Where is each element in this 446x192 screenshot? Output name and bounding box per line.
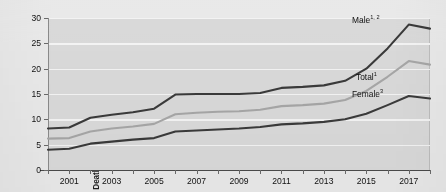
x-tick-2017 <box>409 170 410 174</box>
series-label-male-sup: 1, 2 <box>370 14 379 20</box>
x-tick-2005 <box>154 170 155 174</box>
y-tick-label-25: 25 <box>31 38 41 48</box>
x-tick-2014 <box>345 170 346 174</box>
y-tick-label-0: 0 <box>36 165 41 175</box>
x-tick-2011 <box>281 170 282 174</box>
series-label-total: Total1 <box>356 71 377 82</box>
x-tick-2008 <box>218 170 219 174</box>
x-axis-line <box>40 170 430 171</box>
y-tick-25 <box>44 43 48 44</box>
series-label-male-text: Male <box>352 15 370 25</box>
x-tick-label-2013: 2013 <box>314 176 333 186</box>
y-tick-10 <box>44 119 48 120</box>
series-label-total-sup: 1 <box>374 71 377 77</box>
y-tick-label-30: 30 <box>31 13 41 23</box>
y-tick-label-5: 5 <box>36 140 41 150</box>
series-label-female: Female3 <box>352 88 383 99</box>
x-tick-2010 <box>260 170 261 174</box>
chart-title-cutoff <box>0 0 446 9</box>
x-tick-label-2015: 2015 <box>357 176 376 186</box>
y-tick-5 <box>44 145 48 146</box>
x-tick-label-2017: 2017 <box>399 176 418 186</box>
x-tick-2009 <box>239 170 240 174</box>
x-tick-2000 <box>48 170 49 174</box>
x-tick-2004 <box>133 170 134 174</box>
x-tick-2006 <box>175 170 176 174</box>
x-tick-label-2003: 2003 <box>102 176 121 186</box>
x-tick-2016 <box>388 170 389 174</box>
y-tick-label-15: 15 <box>31 89 41 99</box>
y-tick-label-10: 10 <box>31 114 41 124</box>
y-tick-label-20: 20 <box>31 64 41 74</box>
x-tick-2018 <box>430 170 431 174</box>
x-tick-2012 <box>303 170 304 174</box>
x-tick-2013 <box>324 170 325 174</box>
x-tick-label-2009: 2009 <box>229 176 248 186</box>
x-tick-2015 <box>366 170 367 174</box>
line-female <box>48 96 430 150</box>
x-tick-2003 <box>112 170 113 174</box>
series-label-female-text: Female <box>352 89 380 99</box>
x-tick-2002 <box>90 170 91 174</box>
x-tick-label-2005: 2005 <box>145 176 164 186</box>
x-tick-label-2007: 2007 <box>187 176 206 186</box>
x-tick-label-2001: 2001 <box>60 176 79 186</box>
y-tick-15 <box>44 94 48 95</box>
series-label-female-sup: 3 <box>380 88 383 94</box>
chart-figure: Deaths per 100,000 standard population 0… <box>0 0 446 192</box>
x-tick-label-2011: 2011 <box>272 176 290 186</box>
x-tick-2001 <box>69 170 70 174</box>
x-tick-2007 <box>197 170 198 174</box>
y-tick-20 <box>44 69 48 70</box>
series-label-male: Male1, 2 <box>352 14 380 25</box>
series-label-total-text: Total <box>356 72 374 82</box>
y-tick-30 <box>44 18 48 19</box>
